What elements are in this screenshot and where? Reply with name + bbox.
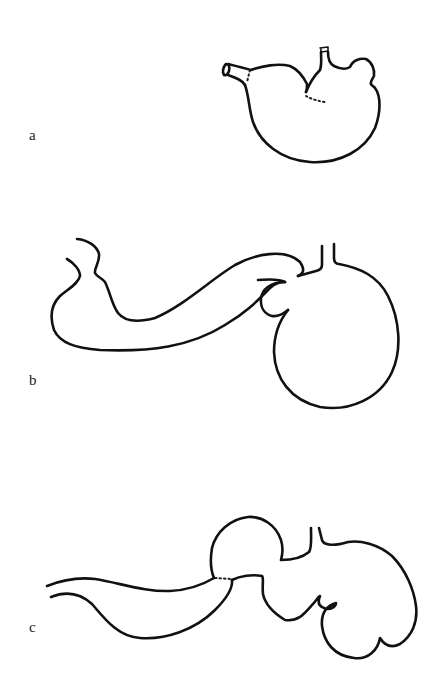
drawing-a-stump-lower: [228, 75, 245, 85]
drawing-b-stomach-body: [274, 244, 398, 408]
drawing-a-internal-dots: [306, 96, 325, 102]
drawing-b: [52, 239, 399, 408]
drawing-a-pylorus-dots: [247, 70, 250, 82]
drawing-b-hook-top: [258, 279, 285, 282]
drawing-b-hook: [261, 282, 288, 316]
drawing-a-stump-cap: [223, 64, 229, 75]
drawing-c-bulb: [211, 517, 311, 578]
drawing-b-loop-outer: [52, 259, 285, 350]
drawing-c: [47, 517, 416, 658]
drawing-a: [223, 47, 380, 162]
drawing-a-lesser-curve: [228, 64, 307, 92]
drawing-a-greater-curve: [245, 84, 380, 162]
drawing-a-fundus: [306, 52, 374, 92]
drawing-c-tube-upper: [47, 578, 214, 591]
drawing-a-oesophagus-cap: [320, 47, 328, 52]
figure: a b c: [0, 0, 436, 684]
drawing-c-pylorus-dots: [215, 578, 231, 579]
drawing-c-lobes: [232, 528, 416, 658]
drawings: [0, 0, 436, 684]
